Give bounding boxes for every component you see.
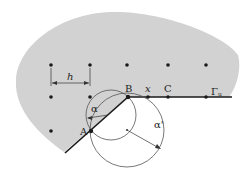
label-C: C (164, 83, 172, 94)
gamma-subscript: u (218, 90, 222, 97)
finite-difference-diagram: h α α' A B x C Γu (0, 0, 249, 176)
point-B (126, 95, 130, 99)
label-A: A (79, 126, 88, 137)
gamma-symbol: Γ (211, 86, 218, 97)
point-A (89, 129, 93, 133)
point-gamma (204, 95, 208, 99)
point-x (146, 95, 150, 99)
label-B: B (125, 83, 132, 94)
label-h: h (67, 71, 73, 82)
label-alpha: α (91, 103, 98, 114)
point-C (166, 95, 170, 99)
label-x: x (145, 83, 151, 94)
alpha-prime-radius (127, 130, 159, 148)
label-alpha-prime: α' (154, 119, 164, 130)
